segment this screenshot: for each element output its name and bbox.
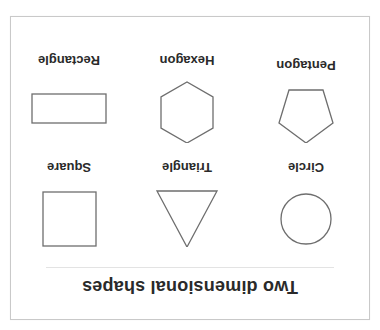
shape-triangle: Triangle [132,137,242,247]
circle-icon [251,137,361,247]
shape-label-square: Square [14,160,124,175]
shape-label-hexagon: Hexagon [132,53,242,68]
shape-label-rectangle: Rectangle [14,53,124,68]
title-divider [46,267,334,268]
shape-circle: Circle [251,137,361,247]
square-icon [14,137,124,247]
shape-label-triangle: Triangle [132,160,242,175]
pentagon-icon [251,33,361,143]
figure-title: Two dimensional shapes [11,276,369,297]
triangle-icon [132,137,242,247]
shape-label-circle: Circle [251,160,361,175]
rectangle-icon [14,33,124,143]
hexagon-icon [132,33,242,143]
shape-square: Square [14,137,124,247]
rotated-page: Two dimensional shapes Circle Triangle S… [0,0,380,330]
shapes-card: Two dimensional shapes Circle Triangle S… [10,16,370,320]
shape-label-pentagon: Pentagon [251,58,361,73]
shape-rectangle: Rectangle [14,33,124,143]
shape-pentagon: Pentagon [251,33,361,143]
shape-hexagon: Hexagon [132,33,242,143]
